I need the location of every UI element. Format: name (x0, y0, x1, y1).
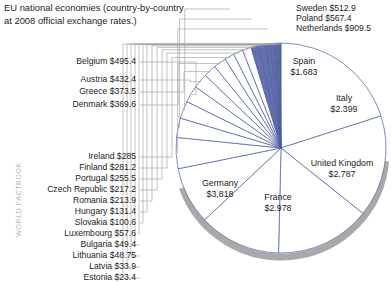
slice-label-value: $3,818 (185, 189, 255, 200)
leader-line (140, 80, 201, 82)
callout-lithuania: Lithuania $48.75 (0, 251, 136, 261)
slice-label-italy: Italy$2.399 (318, 93, 370, 114)
slice-label-germany: Germany$3,818 (185, 178, 255, 199)
slice-label-name: Spain (278, 56, 330, 67)
callout-belgium: Belgium $495.4 (0, 57, 136, 67)
callout-greece: Greece $373.5 (0, 87, 136, 97)
slice-label-value: $2.978 (248, 203, 308, 214)
slice-label-spain: Spain$1.683 (278, 56, 330, 77)
slice-label-name: Italy (318, 93, 370, 104)
slice-label-value: $1.683 (278, 67, 330, 78)
slice-label-united-kingdom: United Kingdom$2.787 (300, 158, 384, 179)
slice-label-france: France$2.978 (248, 192, 308, 213)
slice-label-name: United Kingdom (300, 158, 384, 169)
leader-line (140, 62, 196, 95)
slice-label-name: Germany (185, 178, 255, 189)
watermark-text: WORLD FACTBOOK (15, 158, 22, 242)
callout-latvia: Latvia $33.9 (0, 262, 136, 272)
slice-label-name: France (248, 192, 308, 203)
slice-label-value: $2.399 (318, 104, 370, 115)
slice-label-value: $2.787 (300, 169, 384, 180)
callout-denmark: Denmark $369.6 (0, 100, 136, 110)
callout-austria: Austria $432.4 (0, 75, 136, 85)
callout-netherlands: Netherlands $909.5 (296, 24, 371, 34)
pie-chart-figure: EU national economies (country-by-countr… (0, 0, 391, 283)
callout-estonia: Estonia $23.4 (0, 273, 136, 283)
